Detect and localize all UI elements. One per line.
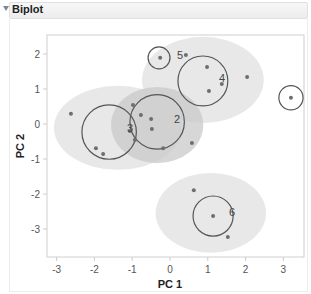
- y-tick-label: -2: [31, 189, 40, 200]
- data-point[interactable]: [161, 146, 165, 150]
- data-point[interactable]: [139, 113, 143, 117]
- cluster-ellipse-6: [156, 173, 266, 253]
- data-point[interactable]: [101, 152, 105, 156]
- y-tick-label: -1: [31, 154, 40, 165]
- x-tick-label: 3: [281, 264, 287, 275]
- cluster-label-6: 6: [229, 206, 235, 218]
- x-tick-label: -1: [128, 264, 137, 275]
- data-point[interactable]: [158, 56, 162, 60]
- y-axis-ticks: 210-1-2-3: [31, 49, 47, 235]
- y-tick-label: 0: [34, 119, 40, 130]
- y-tick-label: -3: [31, 224, 40, 235]
- data-point[interactable]: [207, 89, 211, 93]
- data-point[interactable]: [289, 96, 293, 100]
- data-point[interactable]: [133, 138, 137, 142]
- x-tick-label: 2: [243, 264, 249, 275]
- cluster-label-5: 5: [177, 49, 183, 61]
- x-tick-label: -2: [90, 264, 99, 275]
- data-point[interactable]: [131, 103, 135, 107]
- cluster-label-4: 4: [219, 72, 225, 84]
- x-axis-ticks: -3-2-10123: [52, 257, 286, 275]
- cluster-label-3: 3: [127, 122, 133, 134]
- data-point[interactable]: [150, 127, 154, 131]
- data-point[interactable]: [190, 141, 194, 145]
- x-axis-label: PC 1: [158, 278, 182, 290]
- data-point[interactable]: [205, 65, 209, 69]
- cluster-label-2: 2: [174, 113, 180, 125]
- x-tick-label: 1: [205, 264, 211, 275]
- data-point[interactable]: [69, 112, 73, 116]
- data-point[interactable]: [245, 75, 249, 79]
- data-point[interactable]: [149, 117, 153, 121]
- biplot-chart: 23456 -3-2-10123 210-1-2-3 PC 1 PC 2: [0, 0, 311, 294]
- y-tick-label: 2: [34, 49, 40, 60]
- x-tick-label: 0: [167, 264, 173, 275]
- data-point[interactable]: [226, 235, 230, 239]
- data-point[interactable]: [184, 53, 188, 57]
- data-point[interactable]: [211, 214, 215, 218]
- x-tick-label: -3: [52, 264, 61, 275]
- y-axis-label: PC 2: [14, 134, 26, 158]
- cluster-ellipse-2: [111, 87, 203, 163]
- data-point[interactable]: [94, 146, 98, 150]
- y-tick-label: 1: [34, 84, 40, 95]
- data-point[interactable]: [192, 188, 196, 192]
